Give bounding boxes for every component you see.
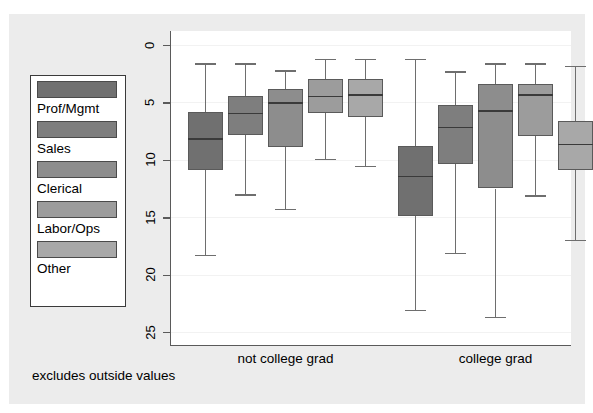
box xyxy=(228,96,263,135)
whisker-lower xyxy=(495,189,496,318)
whisker-cap-lower xyxy=(235,194,256,195)
box xyxy=(268,89,303,148)
y-axis-tick xyxy=(163,160,170,161)
whisker-cap-upper xyxy=(275,70,296,71)
legend-label: Sales xyxy=(37,138,119,159)
whisker-cap-upper xyxy=(405,59,426,60)
whisker-lower xyxy=(535,136,536,196)
whisker-lower xyxy=(415,216,416,310)
group-label-not-college-grad: not college grad xyxy=(206,351,366,366)
whisker-cap-upper xyxy=(565,66,586,67)
whisker-upper xyxy=(415,59,416,146)
whisker-cap-upper xyxy=(315,59,336,60)
legend-swatch xyxy=(37,121,117,138)
y-axis-tick xyxy=(163,45,170,46)
x-axis-line xyxy=(170,345,571,346)
gridline xyxy=(171,45,571,46)
y-axis-tick-label: 20 xyxy=(139,266,161,284)
legend-label: Clerical xyxy=(37,178,119,199)
legend-swatch xyxy=(37,201,117,218)
legend-item: Prof/Mgmt xyxy=(37,81,119,119)
legend-label: Other xyxy=(37,258,119,279)
legend-label: Labor/Ops xyxy=(37,218,119,239)
median-line xyxy=(268,102,303,104)
whisker-lower xyxy=(365,117,366,165)
group-label-college-grad: college grad xyxy=(416,351,576,366)
box xyxy=(348,79,383,117)
whisker-upper xyxy=(455,71,456,104)
whisker-cap-lower xyxy=(445,253,466,254)
whisker-upper xyxy=(245,63,246,95)
whisker-upper xyxy=(495,63,496,84)
whisker-cap-upper xyxy=(525,63,546,64)
whisker-lower xyxy=(285,147,286,209)
chart-screenshot: 0510152025 hourly wage not college gradc… xyxy=(0,0,593,413)
median-line xyxy=(518,94,553,96)
legend-label: Prof/Mgmt xyxy=(37,98,119,119)
whisker-cap-lower xyxy=(355,166,376,167)
whisker-cap-lower xyxy=(315,159,336,160)
box xyxy=(438,105,473,165)
y-axis-tick xyxy=(163,102,170,103)
median-line xyxy=(438,127,473,129)
box xyxy=(398,146,433,216)
y-axis-tick-label-text: 20 xyxy=(143,267,158,281)
legend-swatch xyxy=(37,161,117,178)
whisker-cap-lower xyxy=(565,240,586,241)
median-line xyxy=(478,110,513,112)
whisker-cap-upper xyxy=(355,59,376,60)
whisker-upper xyxy=(575,66,576,121)
whisker-lower xyxy=(245,135,246,195)
whisker-cap-lower xyxy=(485,317,506,318)
legend-swatch xyxy=(37,241,117,258)
y-axis-tick-label: 10 xyxy=(139,151,161,169)
y-axis-tick-label: 0 xyxy=(139,36,161,54)
y-axis-line xyxy=(170,31,171,346)
y-axis-tick xyxy=(163,332,170,333)
whisker-cap-lower xyxy=(275,209,296,210)
whisker-lower xyxy=(455,164,456,252)
whisker-lower xyxy=(575,170,576,240)
gridline xyxy=(171,332,571,333)
y-axis-tick-label-text: 10 xyxy=(143,153,158,167)
box xyxy=(558,121,593,170)
box xyxy=(478,84,513,188)
whisker-upper xyxy=(535,63,536,84)
whisker-cap-upper xyxy=(195,63,216,64)
gridline xyxy=(171,217,571,218)
whisker-cap-upper xyxy=(235,63,256,64)
y-axis-tick-label-text: 0 xyxy=(142,41,157,48)
y-axis-tick-label-text: 25 xyxy=(143,325,158,339)
whisker-upper xyxy=(325,59,326,80)
y-axis-tick-label-text: 15 xyxy=(143,210,158,224)
median-line xyxy=(308,96,343,98)
median-line xyxy=(228,113,263,115)
box xyxy=(518,84,553,136)
legend-swatch xyxy=(37,81,117,98)
legend-item: Sales xyxy=(37,121,119,159)
y-axis-tick xyxy=(163,217,170,218)
y-axis-tick xyxy=(163,275,170,276)
median-line xyxy=(348,94,383,96)
legend-item: Clerical xyxy=(37,161,119,199)
y-axis-tick-label-text: 5 xyxy=(142,99,157,106)
legend-item: Other xyxy=(37,241,119,279)
whisker-upper xyxy=(365,59,366,80)
whisker-cap-lower xyxy=(195,255,216,256)
whisker-cap-lower xyxy=(525,195,546,196)
chart-note: excludes outside values xyxy=(32,368,175,383)
median-line xyxy=(398,176,433,178)
whisker-cap-upper xyxy=(485,63,506,64)
box xyxy=(188,112,223,171)
median-line xyxy=(558,144,593,146)
whisker-lower xyxy=(205,170,206,255)
legend-item: Labor/Ops xyxy=(37,201,119,239)
gridline xyxy=(171,275,571,276)
whisker-upper xyxy=(205,63,206,111)
legend: Prof/MgmtSalesClericalLabor/OpsOther xyxy=(30,75,126,307)
whisker-upper xyxy=(285,70,286,88)
y-axis-tick-label: 25 xyxy=(139,323,161,341)
whisker-cap-lower xyxy=(405,310,426,311)
y-axis-tick-label: 5 xyxy=(139,93,161,111)
median-line xyxy=(188,138,223,140)
